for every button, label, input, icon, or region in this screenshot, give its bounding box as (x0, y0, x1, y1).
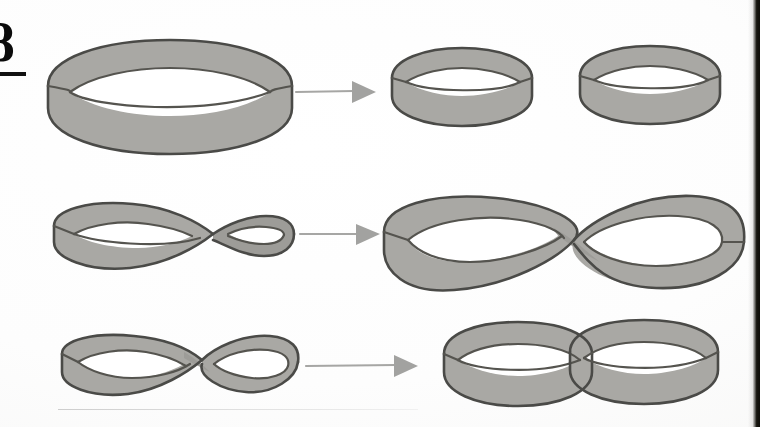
page-number-glyph: 8 (0, 14, 16, 70)
page-gutter-shadow (748, 0, 760, 427)
row-untwisted-source-band (40, 32, 300, 152)
row-fulltwist-arrow (306, 352, 422, 380)
row-halftwist-source-band (48, 196, 298, 278)
row-untwisted-result-ring-left (388, 44, 536, 130)
row-halftwist-arrow (300, 220, 384, 248)
row-halftwist-result-band (378, 182, 750, 304)
row-untwisted-arrow (296, 78, 380, 106)
row-untwisted-result-ring-right (575, 42, 725, 128)
footer-rule (58, 409, 418, 410)
row-fulltwist-result-linked-rings (440, 316, 722, 414)
row-fulltwist-source-band (56, 328, 304, 404)
running-head-rule (0, 72, 26, 76)
scanned-page: 8 (0, 0, 760, 427)
